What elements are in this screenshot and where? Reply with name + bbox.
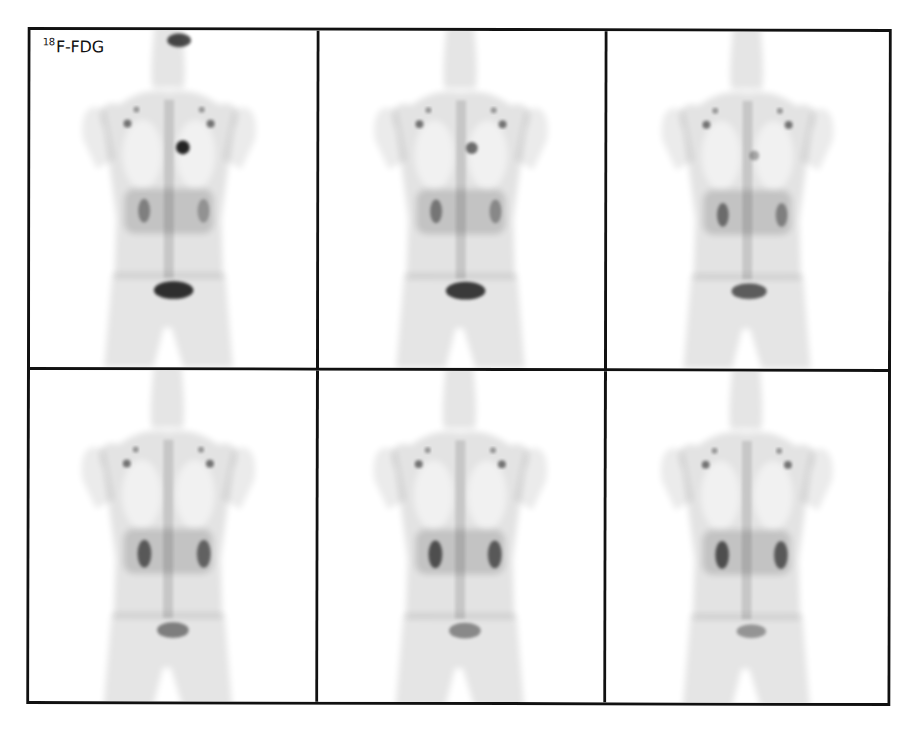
tracer-label: 18F-FDG xyxy=(43,36,104,56)
pet-panel-1: 18F-FDG xyxy=(30,30,320,371)
pet-image-grid: 18F-FDG xyxy=(26,27,891,706)
body-scan-image xyxy=(29,370,316,702)
pet-panel-3 xyxy=(607,31,889,372)
pet-panel-5 xyxy=(318,371,607,703)
body-scan-image xyxy=(607,31,889,369)
pet-panel-6 xyxy=(606,371,888,703)
body-scan-image xyxy=(30,30,317,368)
tracer-name: F-FDG xyxy=(56,37,104,56)
pet-panel-4 xyxy=(29,370,319,702)
body-scan-image xyxy=(606,371,888,703)
body-scan-image xyxy=(319,31,605,369)
isotope-mass-number: 18 xyxy=(43,36,55,47)
body-scan-image xyxy=(318,371,604,703)
pet-panel-2 xyxy=(319,31,608,372)
